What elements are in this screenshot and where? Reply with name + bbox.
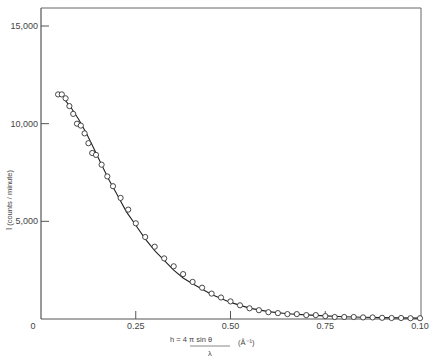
data-point bbox=[99, 162, 104, 167]
data-point bbox=[304, 313, 309, 318]
y-tick-label: 10,000 bbox=[10, 119, 38, 129]
data-point bbox=[67, 104, 72, 109]
data-point bbox=[417, 316, 422, 321]
data-point bbox=[152, 244, 157, 249]
y-ticks: 5,00010,00015,000 bbox=[10, 21, 49, 226]
data-point bbox=[118, 195, 123, 200]
data-point bbox=[351, 314, 356, 319]
data-point bbox=[361, 315, 366, 320]
y-axis-label-text: Ī (counts / minute) bbox=[5, 169, 14, 230]
y-tick-label: 5,000 bbox=[15, 216, 38, 226]
data-point bbox=[323, 314, 328, 319]
x-axis-label: h = 4 π sin θ λ (Å⁻¹) bbox=[170, 335, 255, 358]
data-point bbox=[63, 96, 68, 101]
data-point bbox=[93, 152, 98, 157]
data-point bbox=[342, 314, 347, 319]
data-point bbox=[370, 315, 375, 320]
data-point bbox=[408, 316, 413, 321]
data-point bbox=[275, 311, 280, 316]
data-point bbox=[143, 234, 148, 239]
data-point bbox=[237, 303, 242, 308]
plot-frame bbox=[41, 8, 421, 319]
fitted-curve bbox=[64, 98, 420, 318]
x-tick-label: 0 bbox=[30, 321, 35, 331]
y-axis-label: Ī (counts / minute) bbox=[5, 169, 14, 230]
data-points bbox=[56, 92, 423, 321]
data-point bbox=[209, 291, 214, 296]
x-tick-label: 0.75 bbox=[316, 321, 334, 331]
data-point bbox=[162, 256, 167, 261]
data-point bbox=[228, 299, 233, 304]
chart: 00.250.500.750.10 5,00010,00015,000 Ī (c… bbox=[0, 0, 432, 362]
x-ticks: 00.250.500.750.10 bbox=[30, 311, 428, 331]
data-point bbox=[126, 207, 131, 212]
data-point bbox=[78, 123, 83, 128]
data-point bbox=[133, 221, 138, 226]
data-point bbox=[389, 315, 394, 320]
data-point bbox=[190, 279, 195, 284]
x-tick-label: 0.25 bbox=[127, 321, 145, 331]
data-point bbox=[285, 312, 290, 317]
x-tick-label: 0.50 bbox=[222, 321, 240, 331]
data-point bbox=[200, 285, 205, 290]
data-point bbox=[266, 310, 271, 315]
y-tick-label: 15,000 bbox=[10, 21, 38, 31]
data-point bbox=[380, 315, 385, 320]
data-point bbox=[105, 174, 110, 179]
data-point bbox=[110, 184, 115, 189]
data-point bbox=[181, 272, 186, 277]
data-point bbox=[218, 295, 223, 300]
data-point bbox=[82, 131, 87, 136]
data-point bbox=[71, 111, 76, 116]
data-point bbox=[399, 315, 404, 320]
data-point bbox=[256, 308, 261, 313]
data-point bbox=[294, 312, 299, 317]
data-point bbox=[313, 313, 318, 318]
data-point bbox=[86, 141, 91, 146]
x-tick-label: 0.10 bbox=[411, 321, 429, 331]
x-axis-label-denominator: λ bbox=[208, 349, 212, 358]
data-point bbox=[247, 306, 252, 311]
x-axis-label-unit: (Å⁻¹) bbox=[238, 338, 255, 347]
data-point bbox=[332, 314, 337, 319]
data-point bbox=[171, 264, 176, 269]
x-axis-label-numerator: h = 4 π sin θ bbox=[170, 335, 212, 344]
